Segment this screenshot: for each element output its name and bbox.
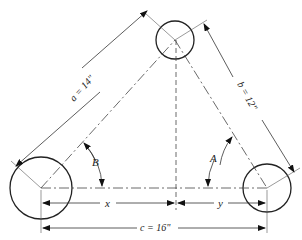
center-line-left-to-top xyxy=(41,40,175,188)
label-angle-B: B xyxy=(92,156,99,168)
triangle-dimension-diagram: a = 14" b = 12" x y xyxy=(0,0,302,240)
label-segment-x: x xyxy=(104,197,110,209)
label-segment-y: y xyxy=(217,197,223,209)
label-angle-A: A xyxy=(209,152,217,164)
center-line-top-to-right xyxy=(175,40,267,188)
label-side-b: b = 12" xyxy=(235,80,260,113)
label-side-c: c = 16" xyxy=(140,222,171,233)
